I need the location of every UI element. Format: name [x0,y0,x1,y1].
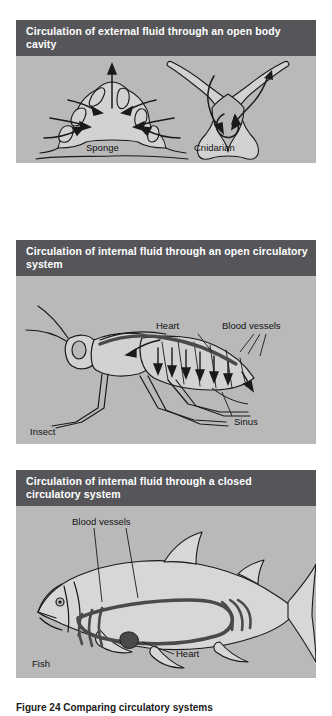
fish-heart [120,632,138,648]
label-fish: Fish [32,658,50,669]
label-blood-vessels: Blood vessels [222,320,281,331]
panel-external-open-body-cavity: Circulation of external fluid through an… [16,20,316,163]
panel-3-header: Circulation of internal fluid through a … [16,470,316,506]
label-sinus: Sinus [234,416,258,427]
insect-eye [72,341,86,359]
panel-2-body: Heart Blood vessels Sinus Insect [16,276,316,444]
panel-3-body: Blood vessels Heart Fish [16,506,316,678]
fish-illustration [16,506,316,678]
panel-internal-closed-circulatory: Circulation of internal fluid through a … [16,470,316,678]
panel-internal-open-circulatory: Circulation of internal fluid through an… [16,240,316,444]
panel-1-header: Circulation of external fluid through an… [16,20,316,56]
label-heart: Heart [156,320,179,331]
panel-2-header: Circulation of internal fluid through an… [16,240,316,276]
circulatory-systems-figure: Circulation of external fluid through an… [0,0,332,716]
label-heart: Heart [176,648,199,659]
insect-illustration [16,276,316,444]
sponge-cnidarian-illustration [16,56,316,163]
label-insect: Insect [30,426,55,437]
label-blood-vessels: Blood vessels [72,516,131,527]
figure-caption: Figure 24 Comparing circulatory systems [16,702,316,716]
panel-1-body: Sponge Cnidarian [16,56,316,163]
label-sponge: Sponge [86,142,119,153]
label-cnidarian: Cnidarian [194,142,235,153]
